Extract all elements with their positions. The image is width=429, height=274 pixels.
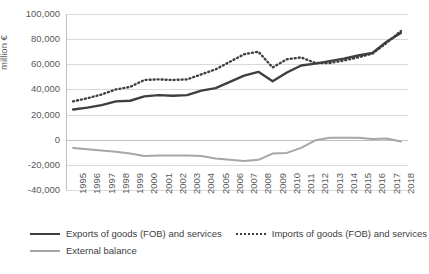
legend-item-imports: Imports of goods (FOB) and services (236, 228, 427, 239)
y-axis-tick: -40,000 (0, 185, 60, 195)
chart-container: million € 100,00080,00060,00040,00020,00… (0, 0, 429, 274)
series-line (73, 138, 401, 161)
chart-legend: Exports of goods (FOB) and services Impo… (30, 228, 429, 262)
legend-item-exports: Exports of goods (FOB) and services (30, 228, 222, 239)
y-axis-tick: 20,000 (0, 110, 60, 120)
legend-label-external-balance: External balance (66, 245, 137, 256)
series-line (73, 33, 401, 110)
legend-row-1: Exports of goods (FOB) and services Impo… (30, 228, 429, 239)
legend-item-external-balance: External balance (30, 245, 137, 256)
y-axis-tick: 40,000 (0, 84, 60, 94)
legend-row-2: External balance (30, 245, 429, 256)
y-axis-line (66, 14, 67, 190)
y-axis-tick: -20,000 (0, 160, 60, 170)
legend-label-imports: Imports of goods (FOB) and services (272, 228, 427, 239)
y-axis-tick: 80,000 (0, 34, 60, 44)
legend-swatch-imports-icon (236, 233, 266, 235)
legend-swatch-exports-icon (30, 233, 60, 235)
series-line (73, 31, 401, 101)
legend-label-exports: Exports of goods (FOB) and services (66, 228, 222, 239)
y-axis-tick: 60,000 (0, 59, 60, 69)
y-axis-tick: 100,000 (0, 9, 60, 19)
plot-area (66, 14, 408, 190)
legend-swatch-external-balance-icon (30, 250, 60, 252)
y-axis-tick: 0 (0, 135, 60, 145)
